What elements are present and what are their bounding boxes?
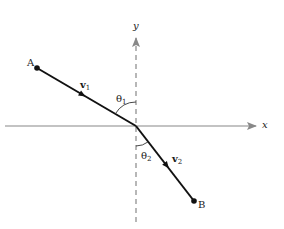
point-b-label: B [198,200,205,210]
theta2-label: θ2 [141,151,152,161]
point-a [34,65,40,71]
theta1-label: θ1 [116,94,127,104]
point-b [191,198,197,204]
refraction-diagram: A B y x v1 v2 θ1 θ2 [0,0,284,229]
v2-label-sub: 2 [178,158,182,166]
v2-label: v2 [172,154,182,164]
diagram-canvas [0,0,284,229]
theta2-label-sub: 2 [147,155,151,163]
v1-label: v1 [80,80,90,90]
y-axis-label: y [133,21,139,31]
x-axis-label: x [262,120,268,130]
point-a-label: A [27,58,34,68]
v2-label-main: v [172,153,178,164]
v1-label-sub: 1 [86,84,90,92]
v1-label-main: v [80,79,86,90]
theta2-arc [136,142,148,146]
theta1-label-sub: 1 [122,98,126,106]
